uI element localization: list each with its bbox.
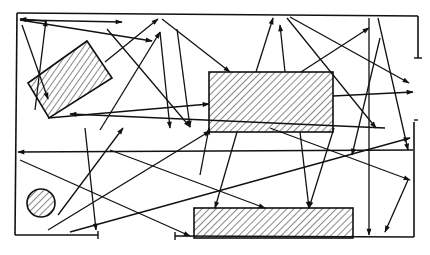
ray-arrow bbox=[162, 19, 230, 72]
ray-arrow bbox=[352, 38, 380, 155]
ray-arrow bbox=[256, 18, 273, 72]
ray-arrow bbox=[20, 20, 122, 22]
left-wall bbox=[15, 13, 17, 235]
diagram-svg bbox=[0, 0, 430, 255]
ray-arrow bbox=[385, 180, 408, 232]
ray-arrow bbox=[309, 128, 334, 208]
ray-arrow bbox=[333, 92, 413, 96]
circle bbox=[27, 189, 55, 217]
top-wall bbox=[17, 13, 418, 16]
ray-arrow bbox=[270, 128, 410, 180]
bottom-block bbox=[194, 208, 353, 238]
ray-arrow bbox=[177, 29, 190, 127]
ray-diagram bbox=[0, 0, 430, 255]
ray-arrow bbox=[300, 132, 309, 208]
ray-arrow bbox=[48, 104, 209, 118]
ray-arrow bbox=[85, 128, 96, 230]
ray-arrow bbox=[20, 20, 152, 41]
ray-arrow bbox=[160, 32, 170, 128]
ray-arrow bbox=[280, 25, 285, 72]
ray-arrow bbox=[378, 18, 408, 150]
ray-arrow bbox=[18, 150, 413, 152]
ray-arrow bbox=[301, 28, 369, 72]
